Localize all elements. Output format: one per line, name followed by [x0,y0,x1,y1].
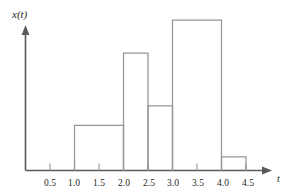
bar-4.0-4.5 [222,157,247,171]
x-tick-label-5: 3.0 [167,178,179,188]
x-tick-label-8: 4.5 [242,178,254,188]
x-tick-labels-group: 0.5 1.0 1.5 2.0 2.5 3.0 3.5 4.0 4.5 [44,178,254,188]
chart-canvas: 0.5 1.0 1.5 2.0 2.5 3.0 3.5 4.0 4.5 x(t)… [0,0,289,195]
x-axis-arrow-icon [262,167,272,175]
x-tick-label-2: 1.5 [93,178,105,188]
histogram-figure: 0.5 1.0 1.5 2.0 2.5 3.0 3.5 4.0 4.5 x(t)… [0,0,289,195]
x-tick-label-0: 0.5 [44,178,56,188]
x-tick-label-1: 1.0 [68,178,80,188]
x-axis-title: t [277,173,280,184]
bar-2.5-3.0 [148,106,173,171]
bars-group [75,20,247,171]
y-axis-arrow-icon [22,25,30,35]
x-tick-label-3: 2.0 [118,178,130,188]
x-tick-label-6: 3.5 [192,178,204,188]
axes-group [22,25,272,174]
bar-2.0-2.5 [124,53,149,170]
x-tick-label-4: 2.5 [143,178,155,188]
y-axis-title: x(t) [11,8,28,21]
bar-3.0-4.0 [173,20,222,171]
x-tick-label-7: 4.0 [217,178,229,188]
